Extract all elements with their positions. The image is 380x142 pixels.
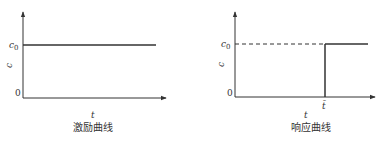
y-axis-label: c bbox=[216, 62, 226, 67]
x-mark-tbar: t̄ bbox=[322, 100, 326, 111]
response-diagram: c0 c 0 t̄ t 响应曲线 bbox=[216, 12, 375, 133]
y-tick-origin: 0 bbox=[227, 88, 233, 98]
y-axis-label: c bbox=[4, 63, 14, 68]
y-tick-c0: c0 bbox=[221, 39, 231, 51]
excitation-diagram: c0 c 0 t 激励曲线 bbox=[4, 12, 166, 133]
x-axis-label: t bbox=[91, 110, 95, 120]
x-axis-label: t bbox=[304, 110, 308, 120]
caption: 响应曲线 bbox=[291, 121, 331, 133]
y-tick-c0: c0 bbox=[9, 40, 19, 52]
caption: 激励曲线 bbox=[73, 121, 113, 133]
diagram-canvas: c0 c 0 t 激励曲线 c0 c 0 t̄ t 响应曲线 bbox=[0, 0, 380, 142]
y-tick-origin: 0 bbox=[15, 88, 21, 98]
